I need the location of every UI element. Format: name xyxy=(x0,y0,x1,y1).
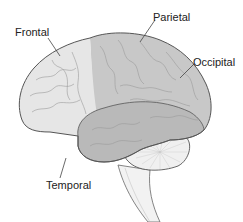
temporal-leader-line xyxy=(60,158,66,178)
parietal-label: Parietal xyxy=(153,12,190,23)
brainstem xyxy=(118,165,160,222)
frontal-label: Frontal xyxy=(15,27,49,38)
temporal-label: Temporal xyxy=(46,180,91,191)
occipital-label: Occipital xyxy=(193,57,235,68)
